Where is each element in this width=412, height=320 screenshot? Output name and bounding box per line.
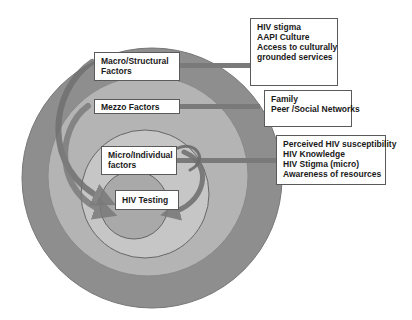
core-label: HIV Testing [115, 190, 179, 210]
micro-factor-item: Perceived HIV susceptibility [283, 139, 379, 149]
macro-label-line-1: Macro/Structural [101, 56, 173, 66]
macro-factor-item: Access to culturally [257, 42, 331, 52]
macro-factor-item: AAPI Culture [257, 32, 331, 42]
mezzo-factor-item: Family [271, 94, 345, 104]
micro-label-line-1: Micro/Individual [108, 150, 170, 160]
macro-factors-box: HIV stigma AAPI Culture Access to cultur… [250, 18, 338, 86]
macro-level-label: Macro/Structural Factors [94, 52, 180, 81]
mezzo-factor-item: Peer /Social Networks [271, 104, 345, 114]
micro-factor-item: HIV Stigma (micro) [283, 159, 379, 169]
micro-label-line-2: factors [108, 160, 170, 170]
macro-factor-item: grounded services [257, 52, 331, 62]
mezzo-label-line-1: Mezzo Factors [101, 102, 173, 112]
mezzo-factors-box: Family Peer /Social Networks [264, 90, 352, 127]
core-label-line-1: HIV Testing [122, 195, 172, 205]
micro-factor-item: Awareness of resources [283, 169, 379, 179]
mezzo-level-label: Mezzo Factors [94, 99, 180, 114]
macro-factor-item: HIV stigma [257, 22, 331, 32]
macro-label-line-2: Factors [101, 66, 173, 76]
micro-factor-item: HIV Knowledge [283, 149, 379, 159]
micro-level-label: Micro/Individual factors [101, 146, 177, 175]
micro-factors-box: Perceived HIV susceptibility HIV Knowled… [276, 135, 386, 185]
